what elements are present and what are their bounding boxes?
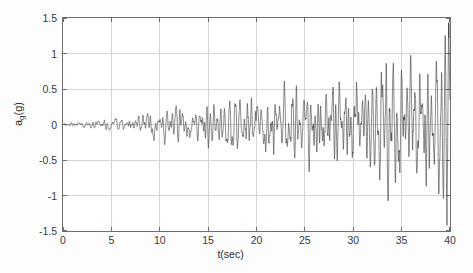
x-tick-label: 5 — [91, 235, 131, 246]
plot-area — [62, 17, 451, 232]
y-axis-label: ag(g) — [12, 84, 24, 144]
x-tick-label: 10 — [140, 235, 180, 246]
acceleration-series — [63, 18, 450, 231]
x-tick-label: 15 — [188, 235, 228, 246]
y-axis-tick-labels: 1.510.50-0.5-1-1.5 — [0, 0, 57, 273]
y-tick-label: 1.5 — [5, 13, 57, 24]
x-axis-label: t(sec) — [0, 248, 473, 260]
y-axis-label-subscript: g — [17, 115, 26, 119]
acceleration-trace — [63, 22, 450, 225]
y-tick-label: -1 — [5, 190, 57, 201]
x-tick-label: 35 — [382, 235, 422, 246]
x-tick-label: 40 — [430, 235, 470, 246]
x-tick-label: 20 — [237, 235, 277, 246]
y-tick-label: 1 — [5, 48, 57, 59]
x-tick-label: 0 — [43, 235, 83, 246]
x-tick-label: 30 — [333, 235, 373, 246]
y-axis-label-main: a — [12, 120, 24, 126]
x-tick-label: 25 — [285, 235, 325, 246]
x-axis-label-text: t(sec) — [217, 248, 243, 260]
y-axis-label-suffix: (g) — [12, 102, 24, 115]
figure: 1.510.50-0.5-1-1.5 ag(g) t(sec) 05101520… — [0, 0, 473, 273]
y-tick-label: -0.5 — [5, 155, 57, 166]
